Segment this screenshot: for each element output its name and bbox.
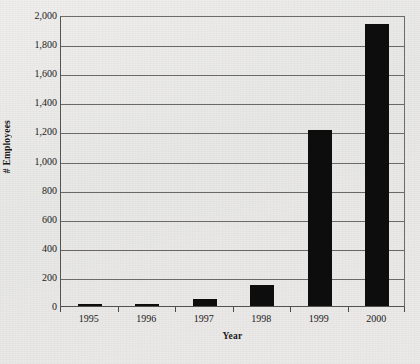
y-axis-tick-label: 600 bbox=[16, 215, 57, 225]
y-axis-tick-label: 1,000 bbox=[16, 157, 57, 167]
x-axis-tick-marks bbox=[60, 307, 405, 312]
bars-layer bbox=[61, 17, 404, 306]
x-axis-tick-label: 1996 bbox=[136, 313, 156, 325]
bar bbox=[308, 130, 332, 306]
x-axis-tick-mark bbox=[118, 307, 119, 312]
y-axis-tick-label: 1,800 bbox=[16, 40, 57, 50]
y-axis-tick-labels: 02004006008001,0001,2001,4001,6001,8002,… bbox=[16, 16, 57, 307]
x-axis-tick-label: 1997 bbox=[194, 313, 214, 325]
y-axis-tick-label: 200 bbox=[16, 273, 57, 283]
y-axis-tick-label: 800 bbox=[16, 186, 57, 196]
x-axis-tick-mark bbox=[290, 307, 291, 312]
x-axis-tick-mark bbox=[60, 307, 61, 312]
y-axis-tick-label: 1,400 bbox=[16, 98, 57, 108]
x-axis-tick-label: 2000 bbox=[366, 313, 386, 325]
bar bbox=[365, 24, 389, 306]
x-axis-tick-label: 1998 bbox=[251, 313, 271, 325]
x-axis-tick-mark bbox=[175, 307, 176, 312]
bar-chart: # Employees 02004006008001,0001,2001,400… bbox=[0, 0, 420, 364]
y-axis-tick-label: 1,600 bbox=[16, 69, 57, 79]
x-axis-title: Year bbox=[60, 331, 405, 341]
x-axis-tick-labels: 199519961997199819992000 bbox=[60, 313, 405, 329]
x-axis-tick-mark bbox=[233, 307, 234, 312]
x-axis-tick-label: 1999 bbox=[309, 313, 329, 325]
bar bbox=[193, 299, 217, 306]
x-axis-tick-mark bbox=[348, 307, 349, 312]
y-axis-tick-label: 400 bbox=[16, 244, 57, 254]
x-axis-tick-label: 1995 bbox=[79, 313, 99, 325]
y-axis-tick-label: 0 bbox=[16, 302, 57, 312]
bar bbox=[78, 304, 102, 306]
y-axis-tick-label: 2,000 bbox=[16, 11, 57, 21]
bar bbox=[250, 285, 274, 306]
plot-area bbox=[60, 16, 405, 307]
y-axis-tick-label: 1,200 bbox=[16, 127, 57, 137]
x-axis-tick-mark bbox=[404, 307, 405, 312]
y-axis-title: # Employees bbox=[2, 120, 16, 173]
bar bbox=[135, 304, 159, 306]
